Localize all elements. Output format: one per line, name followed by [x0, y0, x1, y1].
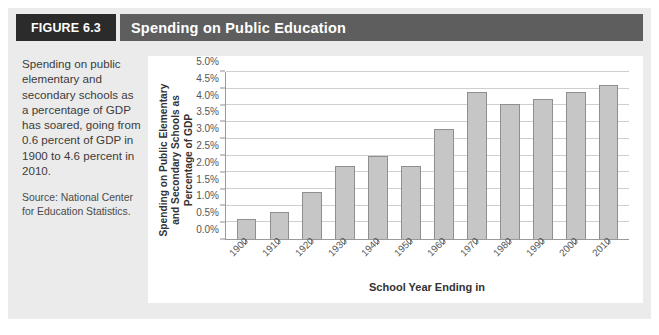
bar-slot	[395, 72, 428, 239]
figure-container: FIGURE 6.3 Spending on Public Education …	[8, 8, 651, 319]
bar-slot	[329, 72, 362, 239]
bar-slot	[296, 72, 329, 239]
plot-area	[225, 72, 629, 240]
bar-1940[interactable]	[368, 156, 388, 240]
y-tick-label: 4.5%	[196, 72, 219, 83]
x-label-slot: 1980	[493, 246, 526, 286]
y-axis-ticks: 0.0%0.5%1.0%1.5%2.0%2.5%3.0%3.5%4.0%4.5%…	[148, 72, 225, 240]
y-tick-label: 0.0%	[196, 224, 219, 235]
x-label-slot: 1990	[526, 246, 559, 286]
bar-slot	[526, 72, 559, 239]
y-tick-label: 1.5%	[196, 173, 219, 184]
bar-1910[interactable]	[270, 212, 290, 239]
y-tick-label: 1.0%	[196, 190, 219, 201]
y-tick-label: 2.5%	[196, 140, 219, 151]
bar-2010[interactable]	[599, 85, 619, 239]
x-label-slot: 1900	[229, 246, 262, 286]
bar-series	[226, 72, 629, 239]
y-tick-label: 0.5%	[196, 207, 219, 218]
bar-slot	[493, 72, 526, 239]
x-label-slot: 1960	[427, 246, 460, 286]
bar-slot	[592, 72, 625, 239]
bar-slot	[559, 72, 592, 239]
y-tick-label: 4.0%	[196, 89, 219, 100]
caption-text: Spending on public elementary and second…	[22, 56, 142, 178]
bar-slot	[460, 72, 493, 239]
bar-1980[interactable]	[500, 104, 520, 239]
bar-1990[interactable]	[533, 99, 553, 239]
x-label-slot: 1950	[394, 246, 427, 286]
bar-1970[interactable]	[467, 92, 487, 239]
y-tick-label: 3.0%	[196, 123, 219, 134]
y-tick-label: 5.0%	[196, 56, 219, 67]
bar-slot	[362, 72, 395, 239]
bar-1920[interactable]	[302, 192, 322, 239]
x-label-slot: 1940	[361, 246, 394, 286]
x-label-slot: 2000	[559, 246, 592, 286]
y-tick-label: 3.5%	[196, 106, 219, 117]
bar-slot	[230, 72, 263, 239]
bar-1930[interactable]	[335, 166, 355, 239]
x-label-slot: 2010	[592, 246, 625, 286]
x-axis-title: School Year Ending in	[225, 281, 629, 293]
x-label-slot: 1920	[295, 246, 328, 286]
chart-panel: Spending on Public Elementary and Second…	[148, 56, 643, 303]
y-tick-label: 2.0%	[196, 156, 219, 167]
x-label-slot: 1970	[460, 246, 493, 286]
x-label-slot: 1930	[328, 246, 361, 286]
bar-1960[interactable]	[434, 129, 454, 239]
caption-source: Source: National Center for Education St…	[22, 191, 142, 219]
x-label-slot: 1910	[262, 246, 295, 286]
bar-2000[interactable]	[566, 92, 586, 239]
bar-slot	[428, 72, 461, 239]
figure-header: FIGURE 6.3 Spending on Public Education	[16, 14, 643, 41]
x-axis-labels: 1900191019201930194019501960197019801990…	[225, 246, 629, 286]
figure-number-label: FIGURE 6.3	[16, 14, 116, 41]
figure-title: Spending on Public Education	[120, 14, 643, 41]
bar-1950[interactable]	[401, 166, 421, 239]
caption-column: Spending on public elementary and second…	[22, 56, 142, 219]
bar-slot	[263, 72, 296, 239]
